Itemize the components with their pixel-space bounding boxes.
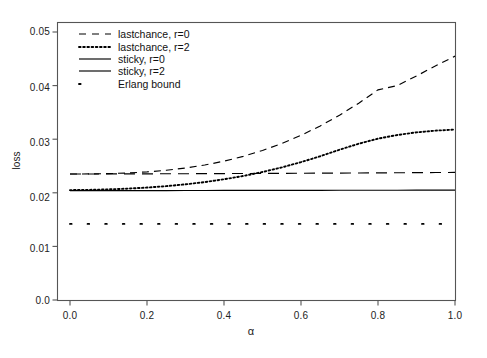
legend-item-0: lastchance, r=0: [78, 28, 258, 40]
ytick-label-0: 0.05: [14, 26, 50, 37]
series-line-1: [70, 130, 455, 191]
legend-key-icon: [78, 78, 112, 90]
legend-label: Erlang bound: [112, 78, 180, 90]
xtick-label-0: 0.0: [55, 310, 85, 321]
xtick-label-5: 1.0: [440, 310, 470, 321]
legend-key-icon: [78, 41, 112, 53]
legend-label: sticky, r=0: [112, 53, 165, 65]
series-line-3: [70, 190, 455, 191]
xtick-label-4: 0.8: [363, 310, 393, 321]
xtick-label-3: 0.6: [286, 310, 316, 321]
ytick-label-5: 0.0: [14, 295, 50, 306]
xtick-label-2: 0.4: [209, 310, 239, 321]
legend-label: sticky, r=2: [112, 65, 165, 77]
legend-item-4: Erlang bound: [78, 78, 258, 90]
y-axis-label: loss: [11, 141, 22, 181]
ytick-label-1: 0.04: [14, 82, 50, 93]
ytick-label-3: 0.02: [14, 192, 50, 203]
ytick-label-4: 0.01: [14, 243, 50, 254]
legend-key-icon: [78, 65, 112, 77]
legend-item-1: lastchance, r=2: [78, 40, 258, 52]
x-axis-label: α: [236, 325, 266, 337]
legend-label: lastchance, r=0: [112, 28, 190, 40]
legend-key-icon: [78, 53, 112, 65]
legend-item-2: sticky, r=0: [78, 53, 258, 65]
chart-figure: 0.05 0.04 0.03 0.02 0.01 0.0 0.0 0.2 0.4…: [0, 0, 487, 358]
legend-label: lastchance, r=2: [112, 41, 190, 53]
chart-legend: lastchance, r=0lastchance, r=2sticky, r=…: [78, 28, 258, 90]
xtick-label-1: 0.2: [132, 310, 162, 321]
legend-item-3: sticky, r=2: [78, 65, 258, 77]
legend-key-icon: [78, 28, 112, 40]
